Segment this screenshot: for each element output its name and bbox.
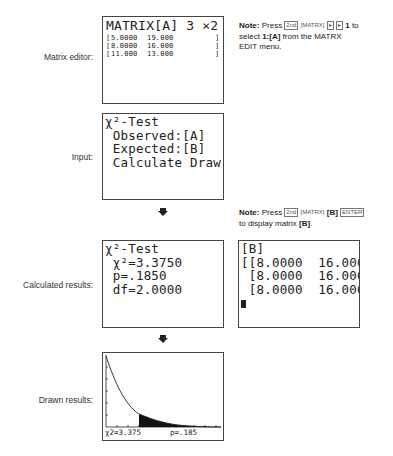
- calculate-draw-options[interactable]: Calculate Draw: [105, 157, 221, 170]
- key-2nd: 2nd: [284, 208, 298, 217]
- key-right-arrow: ▸: [336, 21, 343, 30]
- matrix-b-row: [8.0000 16.000…: [241, 270, 357, 283]
- matrix-cell[interactable]: 11.000: [111, 51, 147, 59]
- chi-square-graph-screen: χ2=3.375 p=.185: [102, 352, 224, 441]
- note-prefix: Note:: [239, 208, 259, 217]
- note-prefix: Note:: [239, 21, 259, 30]
- matrix-row: [ 11.000 13.000 ]: [106, 51, 220, 59]
- note-text: to display matrix: [239, 219, 299, 228]
- matrix-b-row: [8.0000 16.000…: [241, 284, 357, 297]
- key-b: [B]: [327, 208, 338, 217]
- matrix-ref: [B]: [299, 219, 310, 228]
- key-right-arrow: ▸: [327, 21, 334, 30]
- p-value: p=.1850: [105, 270, 221, 283]
- chi-square-distribution-plot: [103, 353, 222, 439]
- menu-item-ref: 1:[A]: [262, 32, 280, 41]
- matrix-cell[interactable]: 13.000: [147, 51, 215, 59]
- matrix-a-editor-screen: MATRIX[A] 3 ×2 [ 5.0000 19.000 ] [ 8.000…: [102, 16, 224, 104]
- note-text: .: [310, 219, 312, 228]
- note-text: to: [350, 21, 359, 30]
- graph-p-value-label: p=.185: [170, 429, 197, 437]
- note-display-matrix-b: Note: Press 2nd [MATRX] [B] ENTER to dis…: [239, 207, 391, 229]
- row-label-calculated-results: Calculated results:: [23, 280, 93, 290]
- key-matrx: [MATRX]: [301, 22, 325, 28]
- chi-square-input-screen: χ²-Test Observed:[A] Expected:[B] Calcul…: [102, 113, 224, 200]
- screen-title: χ²-Test: [105, 116, 221, 129]
- matrix-b-header: [B]: [241, 243, 357, 256]
- screen-title: χ²-Test: [105, 243, 221, 256]
- note-text: EDIT menu.: [239, 42, 282, 51]
- note-text: Press: [259, 21, 284, 30]
- matrix-a-rows: [ 5.0000 19.000 ] [ 8.0000 16.000 ] [ 11…: [106, 35, 220, 59]
- df-value: df=2.0000: [105, 284, 221, 297]
- row-label-matrix-editor: Matrix editor:: [44, 52, 93, 62]
- note-select-matrix-a: Note: Press 2nd [MATRX] ▸ ▸ 1 to select …: [239, 20, 389, 53]
- expected-field[interactable]: Expected:[B]: [105, 143, 221, 156]
- bracket-close: ]: [215, 51, 219, 59]
- note-text: from the MATRX: [280, 32, 341, 41]
- row-label-drawn-results: Drawn results:: [39, 395, 93, 405]
- note-text: select: [239, 32, 262, 41]
- chi-square-results-screen: χ²-Test χ²=3.3750 p=.1850 df=2.0000: [102, 240, 224, 328]
- graph-chi-square-label: χ2=3.375: [105, 429, 141, 437]
- key-2nd: 2nd: [284, 21, 298, 30]
- note-text: Press: [259, 208, 284, 217]
- row-label-input: Input:: [72, 152, 93, 162]
- matrix-b-display-screen: [B] [[8.0000 16.000… [8.0000 16.000… [8.…: [238, 240, 360, 328]
- cursor-block: [241, 300, 246, 308]
- key-matrx: [MATRX]: [301, 209, 325, 215]
- matrix-a-title: MATRIX[A] 3 ×2: [106, 19, 220, 32]
- key-enter: ENTER: [340, 208, 364, 217]
